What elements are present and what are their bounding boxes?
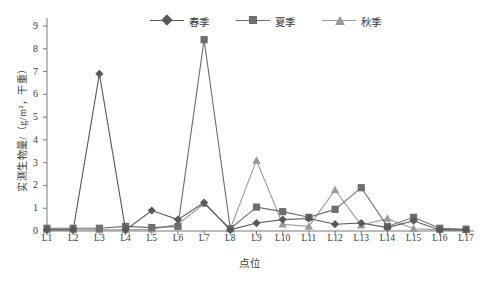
benthic-biomass-line-chart: 春季 夏季 秋季 实测生物量/（g/m²，干重） 点位 0123456789 L… (0, 0, 500, 284)
y-tick-label: 7 (20, 67, 38, 77)
y-tick-label: 8 (20, 44, 38, 54)
y-tick-label: 1 (20, 203, 38, 213)
y-tick-label: 4 (20, 135, 38, 145)
x-tick-label: L17 (451, 233, 481, 243)
y-tick-label: 6 (20, 89, 38, 99)
y-tick-label: 3 (20, 158, 38, 168)
y-tick-label: 9 (20, 21, 38, 31)
y-tick-label: 5 (20, 112, 38, 122)
y-tick-label: 2 (20, 180, 38, 190)
